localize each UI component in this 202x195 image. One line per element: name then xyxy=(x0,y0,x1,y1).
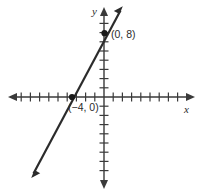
y-axis-label: y xyxy=(91,5,97,17)
x-axis-left-arrow xyxy=(8,93,17,101)
point-marker-x-intercept xyxy=(69,94,75,100)
line-lower-arrowhead xyxy=(31,170,40,178)
x-axis xyxy=(8,93,195,102)
plotted-line xyxy=(31,6,123,178)
graph-canvas: (0, 8) (−4, 0) y x xyxy=(0,0,202,195)
point-label-x-intercept: (−4, 0) xyxy=(68,101,99,113)
line-upper-arrowhead xyxy=(114,6,123,14)
point-marker-y-intercept xyxy=(101,30,107,36)
coordinate-plane-figure: (0, 8) (−4, 0) y x xyxy=(0,0,202,195)
y-axis-bottom-arrow xyxy=(100,180,108,189)
x-axis-label: x xyxy=(183,103,189,115)
linear-function-line xyxy=(34,11,121,174)
point-label-y-intercept: (0, 8) xyxy=(111,28,136,40)
x-axis-right-arrow xyxy=(186,93,195,101)
y-axis-top-arrow xyxy=(100,7,108,16)
